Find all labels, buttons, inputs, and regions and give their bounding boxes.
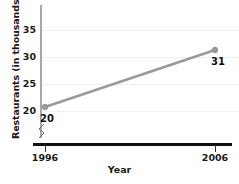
x-axis-spine	[33, 143, 232, 146]
series-line	[45, 50, 215, 107]
data-label-1996: 20	[40, 113, 54, 124]
x-tick-1996	[45, 145, 46, 152]
x-tick-label-1996: 1996	[23, 152, 67, 163]
x-axis-title: Year	[0, 164, 239, 175]
data-point-1996	[42, 104, 48, 110]
x-tick-label-2006: 2006	[193, 152, 237, 163]
data-label-2006: 31	[211, 56, 225, 67]
data-point-2006	[212, 47, 218, 53]
x-tick-2006	[215, 145, 216, 152]
line-chart: Restaurants (in thousands) 35 30 25 20 2…	[0, 0, 239, 184]
